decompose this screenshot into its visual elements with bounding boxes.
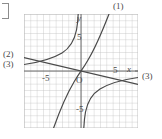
x-tick-positive-5: 5 — [113, 66, 118, 75]
y-tick-positive-5: 5 — [77, 33, 82, 42]
callout-curve-3-left: (3) — [3, 60, 14, 69]
callout-curve-2: (2) — [3, 50, 14, 59]
callout-curve-1: (1) — [113, 2, 124, 11]
y-tick-negative-5: -5 — [76, 105, 84, 114]
callout-curve-3-right: (3) — [142, 72, 153, 81]
corner-bracket-icon — [2, 3, 9, 19]
origin-label: O — [76, 76, 83, 85]
math-figure: (1) (2) (3) (3) y x O 5 -5 -5 5 — [0, 0, 162, 139]
x-axis-label: x — [127, 65, 131, 74]
x-tick-negative-5: -5 — [42, 74, 50, 83]
y-axis-label: y — [77, 14, 81, 23]
